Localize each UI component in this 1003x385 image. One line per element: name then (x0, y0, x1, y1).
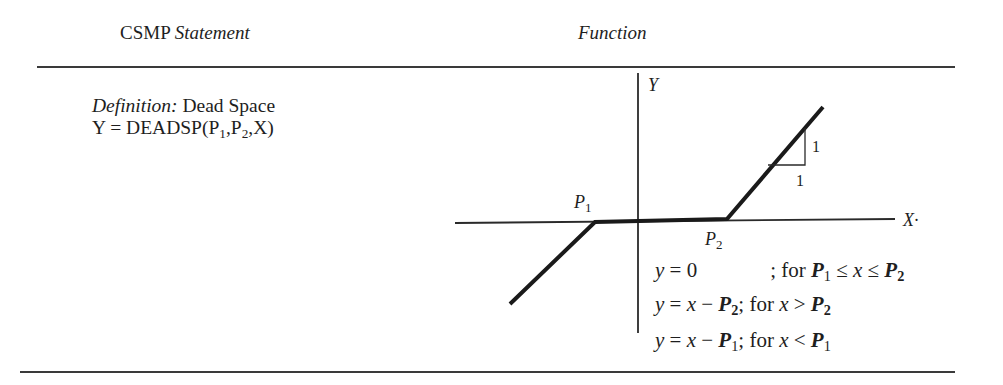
equation-row-1: y = 0; for P1 ≤ x ≤ P2 (655, 258, 904, 283)
eq-var: P (811, 292, 824, 316)
p1-label: P1 (573, 192, 592, 215)
p2-label: P2 (704, 229, 723, 252)
eq-var: P (718, 328, 731, 352)
eq-var: y (655, 328, 664, 352)
slope-run-label: 1 (796, 172, 804, 189)
eq-text: < (788, 328, 810, 352)
eq-var: y (655, 292, 664, 316)
eq-text: = (664, 292, 686, 316)
eq-sub: 2 (897, 268, 904, 284)
eq-var: P (718, 292, 731, 316)
eq-var: x (687, 328, 696, 352)
eq-var: x (853, 258, 862, 282)
equation-row-2: y = x − P2; for x > P2 (655, 292, 831, 317)
eq-var: P (884, 258, 897, 282)
p2-letter: P (704, 229, 716, 249)
footer-rule (20, 371, 955, 373)
eq-text: ≤ (862, 258, 884, 282)
p1-letter: P (573, 192, 585, 212)
eq-text: − (696, 292, 718, 316)
eq-text: = 0 (664, 258, 697, 282)
p2-subscript: 2 (716, 237, 723, 252)
eq-var: P (811, 258, 824, 282)
p1-subscript: 1 (585, 200, 592, 215)
eq-sub: 1 (824, 268, 831, 284)
eq-sub: 1 (824, 338, 831, 354)
slope-rise-label: 1 (812, 138, 820, 155)
eq-text: ; for (770, 258, 811, 282)
eq-var: x (687, 292, 696, 316)
eq-text: > (788, 292, 810, 316)
eq-text: ; for (738, 292, 779, 316)
y-axis-label: Y (648, 75, 660, 95)
x-axis-label: X· (902, 210, 919, 230)
eq-text: ≤ (831, 258, 853, 282)
eq-sub: 2 (824, 302, 831, 318)
eq-var: P (811, 328, 824, 352)
eq-text: = (664, 328, 686, 352)
dead-space-graph: Y X· P1 P2 1 1 (0, 0, 1003, 385)
eq-text: − (696, 328, 718, 352)
eq-text: ; for (738, 328, 779, 352)
equation-row-3: y = x − P1; for x < P1 (655, 328, 831, 353)
eq-var: y (655, 258, 664, 282)
